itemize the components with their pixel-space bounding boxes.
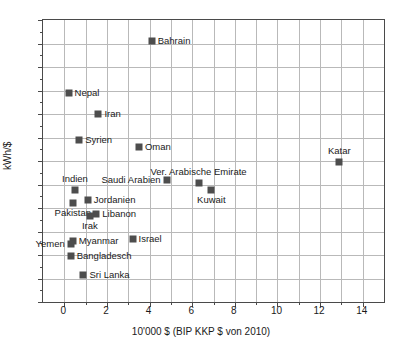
data-point[interactable]	[69, 200, 76, 207]
x-axis-tick-label: 6	[188, 306, 194, 316]
x-axis-minor-tick	[341, 302, 342, 305]
data-point-label: Oman	[145, 142, 171, 152]
scatter-chart-figure: kWh/$ 10'000 $ (BIP KKP $ von 2010) Bahr…	[0, 0, 402, 349]
gridline-vertical	[171, 20, 172, 302]
x-axis-minor-tick	[128, 302, 129, 305]
y-axis-title: kWh/$	[2, 142, 13, 170]
data-point[interactable]	[67, 253, 74, 260]
gridline-vertical	[150, 20, 151, 302]
data-point[interactable]	[93, 210, 100, 217]
y-axis-minor-tick	[40, 149, 43, 150]
data-point[interactable]	[336, 159, 343, 166]
data-point[interactable]	[135, 143, 142, 150]
data-point[interactable]	[86, 213, 93, 220]
y-axis-tick	[38, 208, 43, 209]
gridline-vertical	[320, 20, 321, 302]
y-axis-tick	[38, 91, 43, 92]
gridline-vertical	[192, 20, 193, 302]
x-axis-tick-label: 4	[146, 306, 152, 316]
x-axis-title: 10'000 $ (BIP KKP $ von 2010)	[0, 326, 402, 337]
data-point-label: Katar	[328, 146, 351, 156]
x-axis-tick-label: 14	[356, 306, 367, 316]
data-point[interactable]	[80, 271, 87, 278]
y-axis-tick	[38, 161, 43, 162]
y-axis-tick	[38, 67, 43, 68]
x-axis-minor-tick	[214, 302, 215, 305]
data-point-label: Ver. Arabische Emirate	[151, 167, 247, 177]
data-point[interactable]	[129, 235, 136, 242]
data-point-label: Bangladesch	[77, 251, 132, 261]
gridline-vertical	[214, 20, 215, 302]
y-axis-minor-tick	[40, 290, 43, 291]
data-point-label: Jordanien	[94, 195, 136, 205]
x-axis-tick-label: 10	[271, 306, 282, 316]
plot-area: BahrainNepalIranSyrienOmanKatarSaudi Ara…	[42, 19, 385, 303]
data-point[interactable]	[71, 187, 78, 194]
data-point[interactable]	[208, 187, 215, 194]
x-axis-minor-tick	[299, 302, 300, 305]
x-axis-tick-label: 12	[314, 306, 325, 316]
y-axis-minor-tick	[40, 267, 43, 268]
y-axis-minor-tick	[40, 173, 43, 174]
data-point-label: Israel	[139, 234, 162, 244]
gridline-vertical	[299, 20, 300, 302]
data-point-label: Indien	[62, 174, 88, 184]
data-point-label: Sri Lanka	[89, 270, 129, 280]
y-axis-minor-tick	[40, 102, 43, 103]
gridline-vertical	[363, 20, 364, 302]
data-point[interactable]	[84, 196, 91, 203]
data-point[interactable]	[195, 180, 202, 187]
x-axis-tick-label: 8	[231, 306, 237, 316]
y-axis-minor-tick	[40, 79, 43, 80]
gridline-vertical	[277, 20, 278, 302]
data-point-label: Libanon	[102, 209, 136, 219]
data-point[interactable]	[76, 136, 83, 143]
data-point-label: Irak	[82, 221, 98, 231]
y-axis-minor-tick	[40, 220, 43, 221]
y-axis-minor-tick	[40, 32, 43, 33]
y-axis-tick	[38, 279, 43, 280]
gridline-vertical	[235, 20, 236, 302]
data-point-label: Bahrain	[158, 36, 191, 46]
x-axis-tick-label: 0	[61, 306, 67, 316]
y-axis-tick	[38, 114, 43, 115]
x-axis-minor-tick	[256, 302, 257, 305]
data-point[interactable]	[95, 111, 102, 118]
data-point[interactable]	[65, 89, 72, 96]
y-axis-minor-tick	[40, 55, 43, 56]
data-point[interactable]	[67, 241, 74, 248]
gridline-vertical	[64, 20, 65, 302]
data-point[interactable]	[163, 176, 170, 183]
data-point-label: Yemen	[35, 239, 64, 249]
y-axis-tick	[38, 20, 43, 21]
y-axis-tick	[38, 255, 43, 256]
x-axis-minor-tick	[86, 302, 87, 305]
y-axis-minor-tick	[40, 126, 43, 127]
x-axis-tick-label: 2	[103, 306, 109, 316]
y-axis-tick	[38, 138, 43, 139]
y-axis-tick	[38, 232, 43, 233]
data-point[interactable]	[148, 38, 155, 45]
data-point-label: Nepal	[75, 88, 100, 98]
y-axis-tick	[38, 185, 43, 186]
data-point-label: Iran	[104, 109, 120, 119]
y-axis-tick	[38, 44, 43, 45]
data-point-label: Kuwait	[197, 195, 226, 205]
x-axis-minor-tick	[171, 302, 172, 305]
gridline-vertical	[256, 20, 257, 302]
y-axis-minor-tick	[40, 196, 43, 197]
data-point-label: Syrien	[85, 135, 112, 145]
y-axis-tick	[38, 302, 43, 303]
data-point-label: Myanmar	[79, 236, 119, 246]
